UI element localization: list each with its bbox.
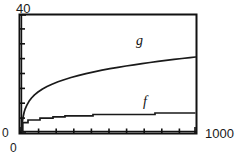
x-axis-max-label: 1000 xyxy=(205,127,234,140)
y-axis-max-label: 40 xyxy=(16,2,30,15)
curve-g-label: g xyxy=(136,34,143,48)
chart-figure: 40 0 0 1000 g f xyxy=(0,0,244,158)
curve-f-label: f xyxy=(143,95,147,109)
y-axis-min-label: 0 xyxy=(2,127,9,139)
x-axis-min-label: 0 xyxy=(10,142,17,154)
plot-frame xyxy=(20,15,197,134)
curve-g xyxy=(22,57,196,132)
